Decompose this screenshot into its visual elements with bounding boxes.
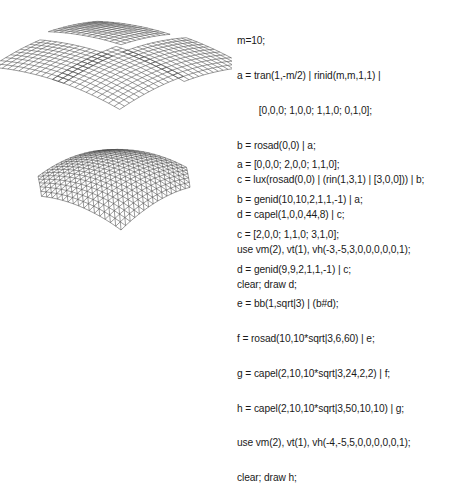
woven-grid-mesh-figure (0, 0, 232, 128)
code-line: use vm(2), vt(1), vh(-4,-5,5,0,0,0,0,0,1… (237, 437, 450, 449)
code-line: a = tran(1,-m/2) | rinid(m,m,1,1) | (237, 70, 450, 82)
triangulated-dome-mesh (38, 149, 190, 230)
code-line: f = rosad(10,10*sqrt|3,6,60) | e; (237, 333, 450, 345)
code-line: g = capel(2,10,10*sqrt|3,24,2,2) | f; (237, 368, 450, 380)
code-line: b = genid(10,10,2,1,1,-1) | a; (237, 194, 450, 206)
code-line: d = genid(9,9,2,1,1,-1) | c; (237, 264, 450, 276)
triangulated-dome-figure (0, 126, 232, 264)
code-line: c = [2,0,0; 1,1,0; 3,1,0]; (237, 229, 450, 241)
code-line: [0,0,0; 1,0,0; 1,1,0; 0,1,0]; (237, 105, 450, 117)
code-line: e = bb(1,sqrt|3) | (b#d); (237, 298, 450, 310)
code-line: a = [0,0,0; 2,0,0; 1,1,0]; (237, 159, 450, 171)
triangulated-dome-drawing (0, 126, 232, 264)
grid-panel-1 (48, 21, 170, 44)
code-listing-triangulated-dome: a = [0,0,0; 2,0,0; 1,1,0]; b = genid(10,… (237, 136, 450, 487)
code-line: h = capel(2,10,10*sqrt|3,50,10,10) | g; (237, 403, 450, 415)
code-line: clear; draw h; (237, 472, 450, 484)
grid-panel-4 (53, 46, 184, 109)
code-line: m=10; (237, 35, 450, 47)
woven-grid-mesh-drawing (0, 0, 232, 128)
grid-panel-2 (123, 38, 233, 82)
